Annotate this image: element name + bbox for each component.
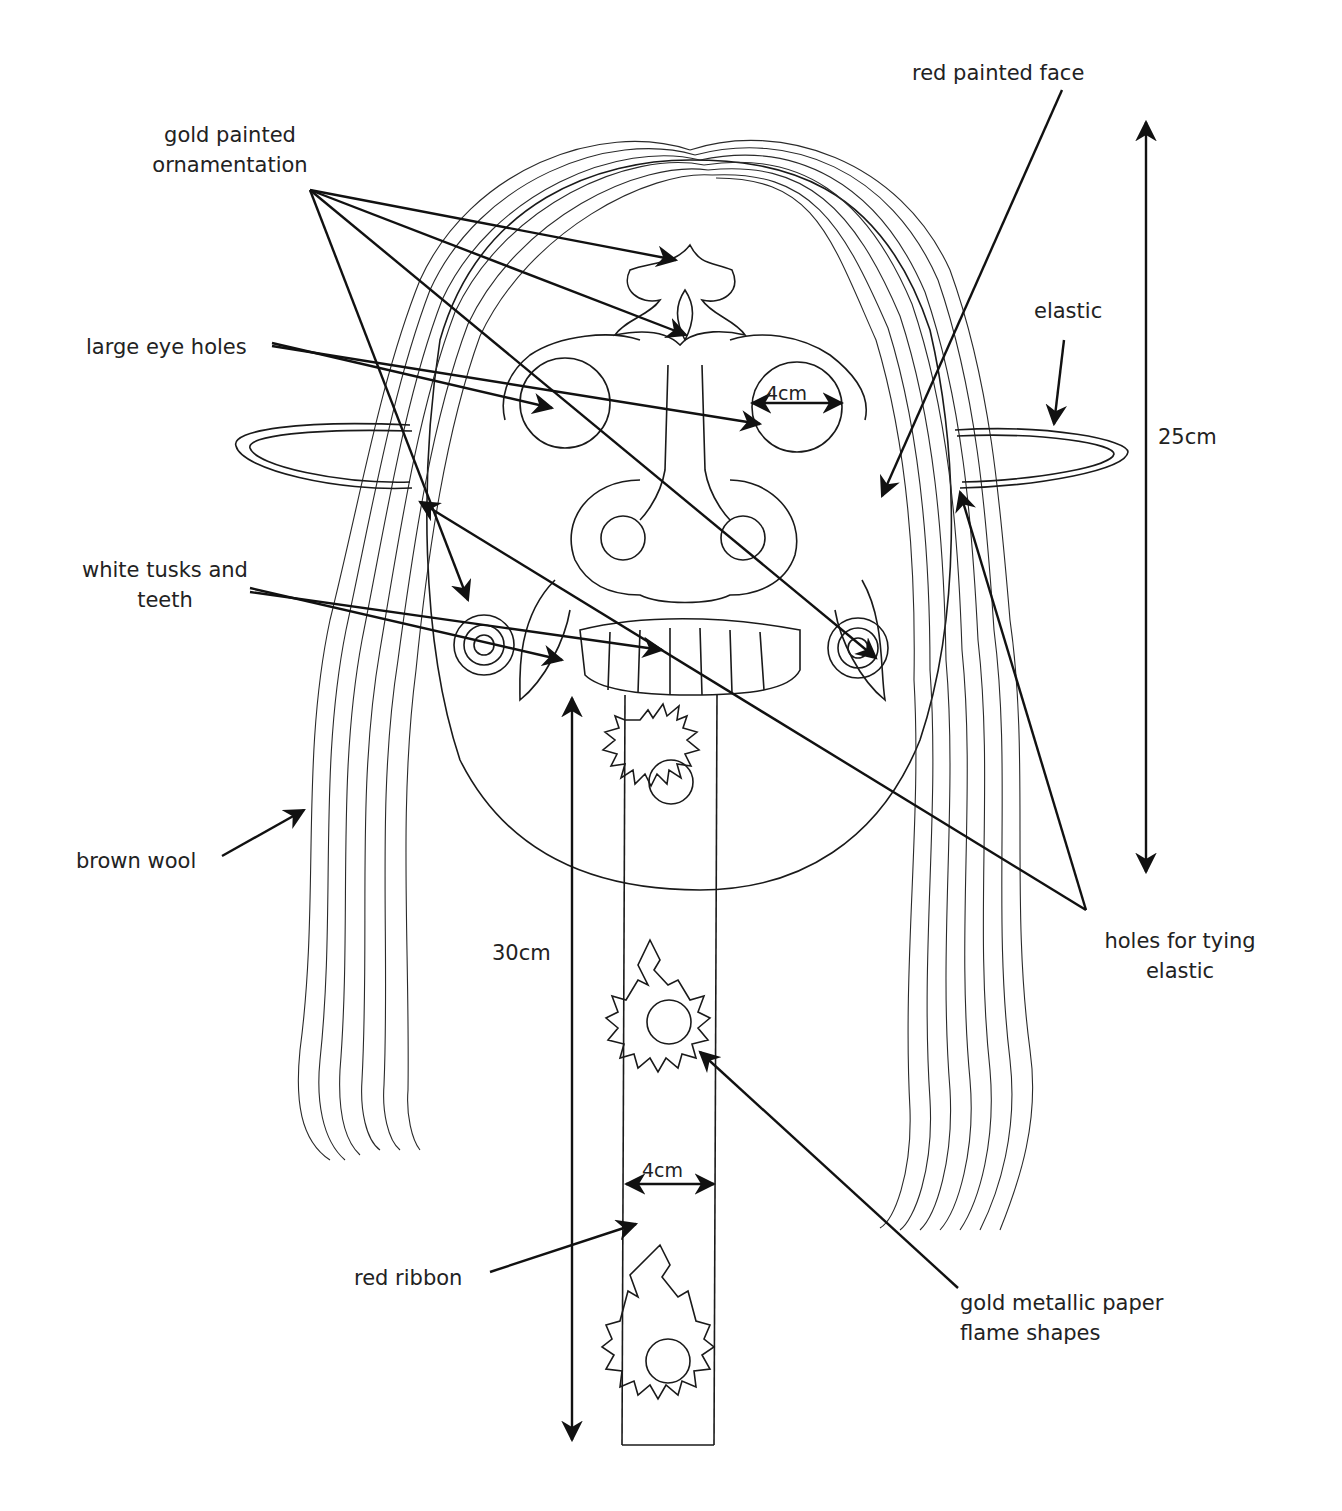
red-ribbon xyxy=(602,695,717,1445)
label-tying-holes-line2: elastic xyxy=(1080,956,1280,986)
label-gold-flames-line2: flame shapes xyxy=(960,1318,1163,1348)
label-red-painted-face: red painted face xyxy=(912,58,1084,88)
tusks-and-teeth xyxy=(454,580,888,700)
mask-diagram: gold painted ornamentation red painted f… xyxy=(0,0,1342,1511)
label-tying-holes-line1: holes for tying xyxy=(1080,926,1280,956)
brown-wool-hair xyxy=(298,140,1032,1230)
label-elastic: elastic xyxy=(1034,296,1102,326)
label-gold-flames-line1: gold metallic paper xyxy=(960,1288,1163,1318)
mask-drawing xyxy=(0,0,1342,1511)
label-gold-ornamentation: gold painted ornamentation xyxy=(140,120,320,180)
label-ribbon-width: 4cm xyxy=(642,1155,683,1185)
label-gold-ornamentation-line2: ornamentation xyxy=(140,150,320,180)
label-white-tusks-line2: teeth xyxy=(60,585,270,615)
label-gold-flames: gold metallic paper flame shapes xyxy=(960,1288,1163,1348)
label-face-height: 25cm xyxy=(1158,422,1217,452)
label-white-tusks-line1: white tusks and xyxy=(60,555,270,585)
label-eye-width: 4cm xyxy=(766,378,807,408)
label-large-eye-holes: large eye holes xyxy=(86,332,247,362)
label-ribbon-length: 30cm xyxy=(492,938,551,968)
elastic-loops xyxy=(236,424,1128,489)
label-brown-wool: brown wool xyxy=(76,846,196,876)
label-white-tusks: white tusks and teeth xyxy=(60,555,270,615)
label-gold-ornamentation-line1: gold painted xyxy=(140,120,320,150)
label-tying-holes: holes for tying elastic xyxy=(1080,926,1280,986)
label-red-ribbon: red ribbon xyxy=(354,1263,462,1293)
